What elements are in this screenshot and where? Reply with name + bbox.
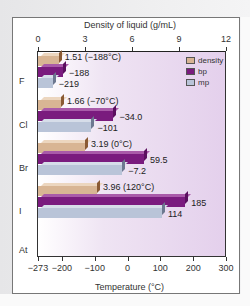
bottom-tick-label: −273 bbox=[28, 263, 48, 273]
legend-label: mp bbox=[198, 78, 209, 87]
bar-top-face bbox=[41, 205, 168, 208]
bottom-tick-label: −200 bbox=[52, 263, 72, 273]
mp-bar bbox=[38, 165, 122, 175]
mp-value-label: −101 bbox=[97, 123, 117, 133]
bar-top-face bbox=[41, 119, 97, 122]
bar-top-face bbox=[41, 162, 128, 165]
bottom-tick bbox=[38, 257, 39, 261]
top-tick bbox=[38, 47, 39, 51]
mp-value-label: −219 bbox=[59, 79, 79, 89]
top-tick-label: 6 bbox=[129, 34, 134, 44]
bottom-tick-label: −100 bbox=[85, 263, 105, 273]
legend-label: bp bbox=[198, 67, 207, 76]
density-value-label: 3.96 (120°C) bbox=[103, 182, 154, 192]
legend-swatch-mp bbox=[186, 79, 195, 86]
legend-item-density: density bbox=[186, 55, 223, 66]
bar-top-face bbox=[41, 108, 119, 111]
bp-value-label: 59.5 bbox=[150, 155, 168, 165]
legend-swatch-bp bbox=[186, 68, 195, 75]
bottom-tick-label: 200 bbox=[186, 263, 201, 273]
bp-value-label: −188 bbox=[69, 68, 89, 78]
bar-top-face bbox=[41, 151, 150, 154]
top-tick bbox=[179, 47, 180, 51]
bar-top-face bbox=[41, 183, 103, 186]
category-label: At bbox=[19, 245, 28, 255]
legend-item-mp: mp bbox=[186, 77, 223, 88]
density-value-label: 3.19 (0°C) bbox=[91, 139, 132, 149]
bp-value-label: −34.0 bbox=[119, 112, 142, 122]
density-value-label: 1.51 (−188°C) bbox=[65, 52, 121, 62]
bar-top-face bbox=[41, 75, 59, 78]
category-label: Cl bbox=[19, 120, 28, 130]
bp-value-label: 185 bbox=[191, 198, 206, 208]
top-tick-label: 3 bbox=[82, 34, 87, 44]
bar-top-face bbox=[41, 140, 91, 143]
bottom-tick-label: 100 bbox=[153, 263, 168, 273]
mp-bar bbox=[38, 208, 162, 218]
top-axis-title: Density of liquid (g/mL) bbox=[84, 20, 176, 30]
mp-value-label: 114 bbox=[168, 209, 182, 219]
bottom-tick bbox=[160, 257, 161, 261]
legend-swatch-density bbox=[186, 57, 195, 64]
page-margin bbox=[241, 17, 250, 306]
top-tick-label: 9 bbox=[176, 34, 181, 44]
category-label: F bbox=[19, 76, 25, 86]
bottom-tick bbox=[62, 257, 63, 261]
mp-value-label: −7.2 bbox=[128, 166, 146, 176]
top-tick bbox=[132, 47, 133, 51]
top-tick bbox=[226, 47, 227, 51]
bottom-tick bbox=[95, 257, 96, 261]
legend-item-bp: bp bbox=[186, 66, 223, 77]
bottom-axis-title: Temperature (°C) bbox=[95, 282, 164, 292]
category-label: Br bbox=[19, 163, 28, 173]
mp-bar bbox=[38, 122, 91, 132]
bar-top-face bbox=[41, 194, 191, 197]
legend-label: density bbox=[198, 56, 223, 65]
category-label: I bbox=[19, 206, 22, 216]
bottom-tick bbox=[128, 257, 129, 261]
bottom-tick-label: 0 bbox=[125, 263, 130, 273]
legend: density bp mp bbox=[186, 55, 223, 88]
bottom-tick bbox=[226, 257, 227, 261]
top-tick-label: 0 bbox=[35, 34, 40, 44]
page-margin bbox=[0, 294, 250, 306]
density-value-label: 1.66 (−70°C) bbox=[67, 96, 118, 106]
top-tick bbox=[85, 47, 86, 51]
mp-bar bbox=[38, 78, 53, 88]
bottom-tick bbox=[193, 257, 194, 261]
top-tick-label: 12 bbox=[221, 34, 231, 44]
bottom-tick-label: 300 bbox=[218, 263, 233, 273]
